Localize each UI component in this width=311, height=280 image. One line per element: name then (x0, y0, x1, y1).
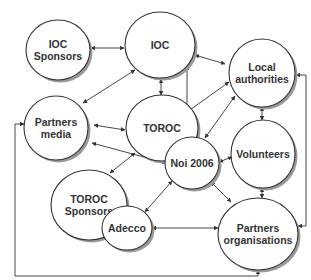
node-label: Sponsors (34, 50, 83, 62)
edge-noi2006-to-adecco (145, 181, 172, 212)
edge-partners-organisations-to-local-authorities (296, 75, 306, 226)
edge-noi2006-to-partners-organisations (211, 182, 231, 202)
node-local-authorities: Localauthorities (229, 39, 298, 110)
edge-ioc-to-local-authorities (195, 55, 225, 64)
node-label: Adecco (108, 222, 146, 234)
edge-partners-media-to-toroc (94, 125, 125, 130)
node-ioc: IOC (125, 12, 198, 81)
node-label: Volunteers (236, 148, 290, 160)
node-partners-organisations: Partnersorganisations (218, 198, 301, 273)
node-label: TOROC (70, 193, 108, 205)
node-label: IOC (151, 39, 170, 51)
node-label: media (41, 128, 72, 140)
node-label: Partners (35, 116, 78, 128)
edge-toroc-to-toroc-sponsors (110, 153, 135, 173)
edge-ioc-to-partners-media (83, 70, 135, 103)
node-label: IOC (49, 38, 68, 50)
node-label: authorities (235, 73, 289, 85)
edge-local-authorities-to-noi2006 (205, 96, 235, 138)
edge-toroc-to-local-authorities (187, 82, 229, 112)
node-volunteers: Volunteers (231, 120, 298, 191)
stakeholder-network-diagram: IOCSponsorsIOCLocalauthoritiesPartnersme… (0, 0, 311, 280)
node-noi2006: Noi 2006 (165, 137, 222, 192)
node-ioc-sponsors: IOCSponsors (26, 20, 93, 83)
node-adecco: Adecco (102, 206, 155, 253)
node-label: organisations (224, 234, 293, 246)
node-partners-media: Partnersmedia (24, 96, 91, 163)
nodes-layer: IOCSponsorsIOCLocalauthoritiesPartnersme… (24, 12, 301, 273)
node-label: Noi 2006 (170, 157, 213, 169)
node-label: TOROC (143, 122, 181, 134)
node-label: Partners (237, 222, 280, 234)
node-label: Local (248, 61, 276, 73)
